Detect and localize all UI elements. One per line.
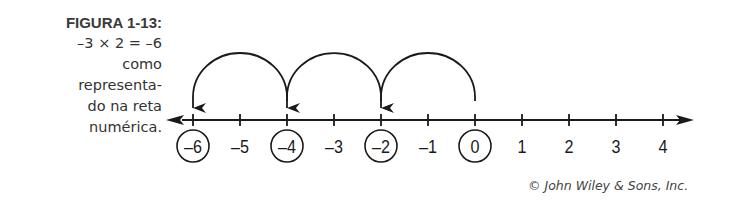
number-line-diagram: –6–5–4–3–2–101234 bbox=[0, 0, 730, 204]
tick-label: –6 bbox=[184, 136, 202, 158]
tick-label: 1 bbox=[518, 136, 527, 158]
tick-label: 2 bbox=[565, 136, 574, 158]
jump-arc bbox=[287, 53, 381, 108]
tick-label: 0 bbox=[471, 136, 480, 158]
number-line-axis bbox=[166, 115, 694, 125]
jump-arc bbox=[381, 53, 475, 108]
copyright-credit: © John Wiley & Sons, Inc. bbox=[528, 178, 688, 193]
tick-label: –3 bbox=[325, 136, 343, 158]
jump-arc bbox=[193, 53, 287, 108]
jump-arcs bbox=[193, 53, 475, 108]
tick-label: 3 bbox=[612, 136, 621, 158]
tick-label: –1 bbox=[419, 136, 437, 158]
tick-label: –5 bbox=[231, 136, 249, 158]
tick-label: 4 bbox=[659, 136, 668, 158]
tick-label: –4 bbox=[278, 136, 296, 158]
arrow-left-icon bbox=[166, 115, 184, 125]
tick-label: –2 bbox=[372, 136, 390, 158]
tick-labels: –6–5–4–3–2–101234 bbox=[177, 130, 668, 162]
